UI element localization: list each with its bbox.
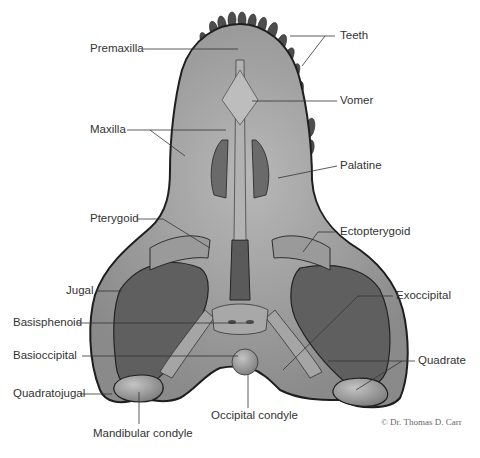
skull-diagram: Premaxilla Teeth Vomer Maxilla Palatine … bbox=[0, 0, 480, 458]
label-basisphenoid: Basisphenoid bbox=[13, 317, 82, 329]
label-pterygoid: Pterygoid bbox=[90, 213, 139, 225]
label-mandibular-condyle: Mandibular condyle bbox=[93, 428, 193, 440]
label-teeth: Teeth bbox=[340, 30, 368, 42]
label-palatine: Palatine bbox=[340, 160, 382, 172]
label-jugal: Jugal bbox=[66, 285, 94, 297]
interpterygoid-vacuity bbox=[230, 240, 250, 300]
label-quadratojugal: Quadratojugal bbox=[13, 388, 85, 400]
label-ectopterygoid: Ectopterygoid bbox=[340, 226, 410, 238]
label-vomer: Vomer bbox=[340, 95, 373, 107]
copyright-credit: © Dr. Thomas D. Carr bbox=[381, 418, 462, 427]
mandibular-condyle-right bbox=[333, 378, 388, 406]
mandibular-condyle-left bbox=[114, 375, 163, 402]
occipital-condyle-shape bbox=[232, 349, 258, 375]
label-premaxilla: Premaxilla bbox=[90, 43, 144, 55]
label-exoccipital: Exoccipital bbox=[396, 290, 451, 302]
label-basioccipital: Basioccipital bbox=[13, 350, 77, 362]
label-quadrate: Quadrate bbox=[418, 355, 466, 367]
basisphenoid-plate bbox=[212, 304, 268, 335]
label-maxilla: Maxilla bbox=[90, 124, 126, 136]
label-occipital-condyle: Occipital condyle bbox=[211, 410, 298, 422]
